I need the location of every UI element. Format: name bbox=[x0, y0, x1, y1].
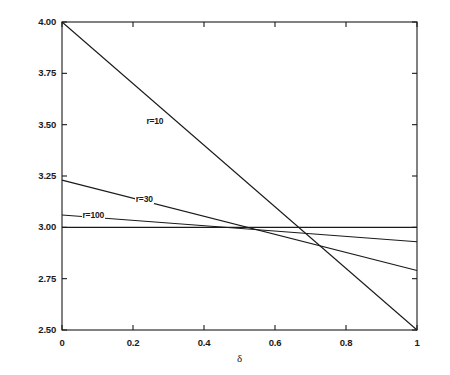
data-lines bbox=[62, 22, 417, 330]
xtick-label-0: 0 bbox=[42, 337, 82, 348]
ytick-label-6: 4.00 bbox=[18, 16, 56, 27]
xtick-label-5: 1 bbox=[397, 337, 437, 348]
series-label-r10: r=10 bbox=[145, 116, 164, 126]
chart-figure: 2.50 2.75 3.00 3.25 3.50 3.75 4.00 0 0.2… bbox=[0, 0, 450, 375]
series-label-r30: r=30 bbox=[135, 194, 154, 204]
ytick-label-4: 3.50 bbox=[18, 119, 56, 130]
plot-area bbox=[0, 0, 450, 375]
ytick-label-1: 2.75 bbox=[18, 273, 56, 284]
xtick-label-3: 0.6 bbox=[255, 337, 295, 348]
ytick-label-5: 3.75 bbox=[18, 67, 56, 78]
ytick-label-2: 3.00 bbox=[18, 221, 56, 232]
xtick-label-4: 0.8 bbox=[326, 337, 366, 348]
xtick-label-1: 0.2 bbox=[113, 337, 153, 348]
series-line-r30 bbox=[62, 180, 417, 270]
series-label-r100: r=100 bbox=[82, 210, 105, 220]
ytick-label-3: 3.25 bbox=[18, 170, 56, 181]
xtick-label-2: 0.4 bbox=[184, 337, 224, 348]
ytick-label-0: 2.50 bbox=[18, 324, 56, 335]
series-line-r100 bbox=[62, 215, 417, 242]
x-axis-title: δ bbox=[210, 352, 270, 364]
series-line-r10 bbox=[62, 22, 417, 330]
